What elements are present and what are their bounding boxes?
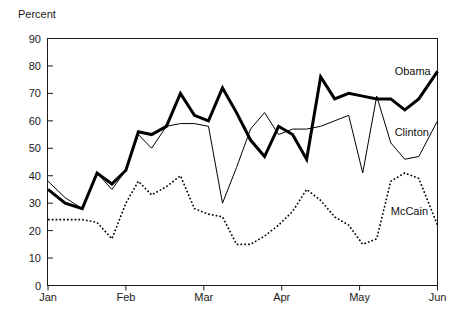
y-axis-unit-label: Percent <box>18 8 56 20</box>
x-axis-tick-label: Apr <box>273 291 290 303</box>
y-axis-tick-label: 40 <box>29 170 41 182</box>
x-axis-tick-label: Feb <box>116 291 135 303</box>
y-axis-tick-label: 80 <box>29 60 41 72</box>
y-axis-tick-label: 10 <box>29 252 41 264</box>
series-label-mccain: McCain <box>391 205 428 217</box>
series-line-clinton <box>48 96 438 209</box>
y-axis-tick-label: 50 <box>29 142 41 154</box>
x-axis-tick-label: May <box>349 291 370 303</box>
plot-frame <box>48 39 438 286</box>
y-axis-tick-labels: 0102030405060708090 <box>29 33 41 292</box>
series-lines <box>48 71 438 244</box>
chart-container: Percent 0102030405060708090 JanFebMarApr… <box>0 0 461 328</box>
y-axis-tick-label: 20 <box>29 225 41 237</box>
y-axis-tick-label: 0 <box>35 280 41 292</box>
series-label-obama: Obama <box>395 65 432 77</box>
y-axis-tick-label: 30 <box>29 197 41 209</box>
line-chart: Percent 0102030405060708090 JanFebMarApr… <box>0 0 461 328</box>
y-axis-tick-label: 70 <box>29 87 41 99</box>
x-axis-tick-label: Jun <box>429 291 447 303</box>
series-line-obama <box>48 71 438 208</box>
y-axis-tick-label: 90 <box>29 33 41 45</box>
x-axis-tick-labels: JanFebMarAprMayJun <box>39 291 446 303</box>
x-axis-tick-label: Jan <box>39 291 57 303</box>
y-axis-ticks <box>48 39 53 286</box>
y-axis-tick-label: 60 <box>29 115 41 127</box>
series-label-clinton: Clinton <box>395 126 429 138</box>
x-axis-tick-label: Mar <box>194 291 213 303</box>
x-axis-ticks <box>48 286 438 291</box>
